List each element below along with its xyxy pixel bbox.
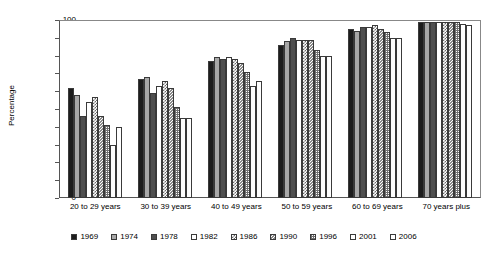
bar-group: [138, 21, 192, 198]
legend-swatch-icon: [151, 234, 157, 240]
y-axis-title: Percentage: [0, 0, 22, 210]
legend-item[interactable]: 1969: [71, 233, 98, 241]
legend: 196919741978198219861990199620012006: [0, 233, 488, 241]
legend-swatch-icon: [310, 234, 316, 240]
x-axis-label: 70 years plus: [422, 202, 470, 211]
legend-swatch-icon: [350, 234, 356, 240]
legend-label: 1974: [120, 233, 138, 241]
bar-group: [278, 21, 332, 198]
x-axis-label: 20 to 29 years: [70, 202, 121, 211]
legend-item[interactable]: 1978: [151, 233, 178, 241]
bar: [396, 38, 402, 198]
legend-label: 2006: [399, 233, 417, 241]
legend-item[interactable]: 1990: [270, 233, 297, 241]
bar: [256, 81, 262, 198]
bar-group: [418, 21, 472, 198]
bar-groups: [60, 21, 480, 198]
bar: [186, 118, 192, 198]
legend-item[interactable]: 2006: [390, 233, 417, 241]
legend-label: 1982: [200, 233, 218, 241]
bar-group: [348, 21, 402, 198]
bar-chart: Percentage 0102030405060708090100 20 to …: [0, 0, 488, 259]
legend-swatch-icon: [71, 234, 77, 240]
legend-item[interactable]: 1974: [111, 233, 138, 241]
y-tick-mark: [55, 198, 59, 199]
legend-item[interactable]: 2001: [350, 233, 377, 241]
legend-label: 1978: [160, 233, 178, 241]
bar: [326, 56, 332, 198]
bar-group: [208, 21, 262, 198]
legend-item[interactable]: 1986: [231, 233, 258, 241]
legend-swatch-icon: [390, 234, 396, 240]
legend-label: 1990: [279, 233, 297, 241]
x-axis-labels: 20 to 29 years30 to 39 years40 to 49 yea…: [60, 202, 480, 211]
legend-swatch-icon: [270, 234, 276, 240]
legend-item[interactable]: 1996: [310, 233, 337, 241]
legend-label: 1996: [319, 233, 337, 241]
legend-label: 1969: [80, 233, 98, 241]
legend-item[interactable]: 1982: [191, 233, 218, 241]
x-axis-label: 50 to 59 years: [281, 202, 332, 211]
legend-swatch-icon: [191, 234, 197, 240]
legend-swatch-icon: [111, 234, 117, 240]
legend-label: 1986: [240, 233, 258, 241]
x-axis-label: 60 to 69 years: [352, 202, 403, 211]
bar-group: [68, 21, 122, 198]
bar: [116, 127, 122, 198]
x-axis-label: 30 to 39 years: [140, 202, 191, 211]
legend-label: 2001: [359, 233, 377, 241]
bar: [466, 25, 472, 198]
legend-swatch-icon: [231, 234, 237, 240]
y-axis-title-label: Percentage: [7, 85, 16, 126]
x-axis-label: 40 to 49 years: [211, 202, 262, 211]
